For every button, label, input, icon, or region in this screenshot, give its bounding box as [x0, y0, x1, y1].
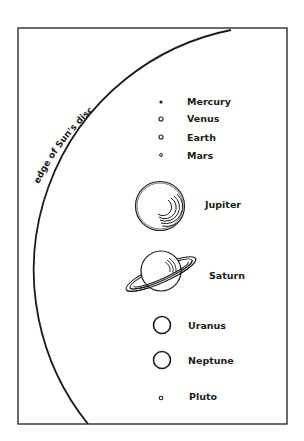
earth-symbol	[159, 135, 163, 139]
jupiter-symbol	[136, 182, 187, 231]
planet-pluto: Pluto	[159, 391, 217, 402]
planet-neptune: Neptune	[154, 352, 234, 369]
uranus-symbol	[154, 317, 172, 334]
planet-jupiter: Jupiter	[136, 182, 242, 231]
mars-symbol	[160, 154, 163, 157]
planet-venus: Venus	[159, 113, 220, 124]
mars-label: Mars	[187, 150, 214, 161]
venus-symbol	[159, 117, 163, 121]
saturn-symbol	[123, 251, 199, 297]
sun-disc-edge-label: edge of Sun's disc	[32, 105, 95, 185]
planet-uranus: Uranus	[154, 317, 227, 334]
planet-earth: Earth	[159, 132, 216, 143]
jupiter-label: Jupiter	[204, 199, 241, 210]
neptune-symbol	[154, 352, 172, 369]
mercury-symbol	[159, 100, 162, 103]
planet-size-diagram: edge of Sun's disc Mercury Venus Earth M…	[0, 0, 304, 441]
planet-mercury: Mercury	[159, 96, 231, 107]
earth-label: Earth	[187, 132, 216, 143]
planet-saturn: Saturn	[123, 251, 245, 297]
mercury-label: Mercury	[187, 96, 232, 107]
planet-mars: Mars	[160, 150, 214, 161]
venus-label: Venus	[187, 113, 220, 124]
neptune-label: Neptune	[188, 355, 234, 366]
saturn-label: Saturn	[209, 270, 245, 281]
uranus-label: Uranus	[188, 320, 226, 331]
pluto-label: Pluto	[189, 391, 218, 402]
pluto-symbol	[159, 396, 163, 400]
